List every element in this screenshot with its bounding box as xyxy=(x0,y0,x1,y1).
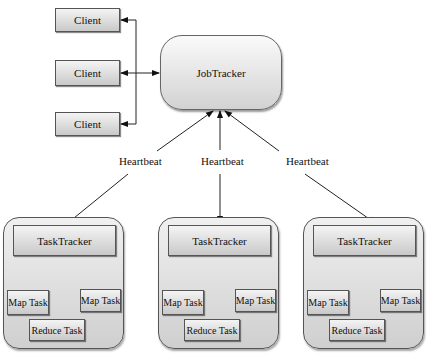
map-task-label: Map Task xyxy=(308,297,347,308)
client-box-1: Client xyxy=(55,8,120,32)
map-task-label: Map Task xyxy=(381,295,420,306)
map-task-left: Map Task xyxy=(7,290,49,315)
tasktracker-node: TaskTracker xyxy=(13,225,116,256)
tasktracker-label: TaskTracker xyxy=(37,235,91,247)
map-task-label: Map Task xyxy=(81,295,120,306)
map-task-right: Map Task xyxy=(235,289,276,312)
reduce-task: Reduce Task xyxy=(329,319,385,341)
reduce-task-label: Reduce Task xyxy=(186,325,237,336)
map-task-label: Map Task xyxy=(163,297,202,308)
heartbeat-label-2: Heartbeat xyxy=(200,155,245,167)
tasktracker-container-2: TaskTracker Map Task Map Task Reduce Tas… xyxy=(158,217,279,349)
client-label: Client xyxy=(74,118,101,130)
client-label: Client xyxy=(74,14,101,26)
client-box-2: Client xyxy=(55,60,120,86)
tasktracker-container-3: TaskTracker Map Task Map Task Reduce Tas… xyxy=(303,217,424,349)
map-task-left: Map Task xyxy=(162,290,204,315)
map-task-left: Map Task xyxy=(307,290,349,315)
tasktracker-container-1: TaskTracker Map Task Map Task Reduce Tas… xyxy=(3,217,124,349)
map-task-label: Map Task xyxy=(8,297,47,308)
tasktracker-label: TaskTracker xyxy=(192,235,246,247)
map-task-right: Map Task xyxy=(380,289,421,312)
reduce-task: Reduce Task xyxy=(184,319,240,341)
tasktracker-label: TaskTracker xyxy=(337,235,391,247)
client-box-3: Client xyxy=(55,112,120,136)
tasktracker-node: TaskTracker xyxy=(313,225,416,256)
heartbeat-label-1: Heartbeat xyxy=(118,155,163,167)
map-task-label: Map Task xyxy=(236,295,275,306)
jobtracker-node: JobTracker xyxy=(160,35,282,110)
reduce-task: Reduce Task xyxy=(29,319,85,341)
map-task-right: Map Task xyxy=(80,289,121,312)
tasktracker-node: TaskTracker xyxy=(168,225,271,256)
jobtracker-label: JobTracker xyxy=(196,67,245,79)
reduce-task-label: Reduce Task xyxy=(31,325,82,336)
heartbeat-label-3: Heartbeat xyxy=(285,155,330,167)
hadoop-jobtracker-architecture-diagram: Client Client Client JobTracker Heartbea… xyxy=(0,0,441,357)
reduce-task-label: Reduce Task xyxy=(331,325,382,336)
client-label: Client xyxy=(74,67,101,79)
